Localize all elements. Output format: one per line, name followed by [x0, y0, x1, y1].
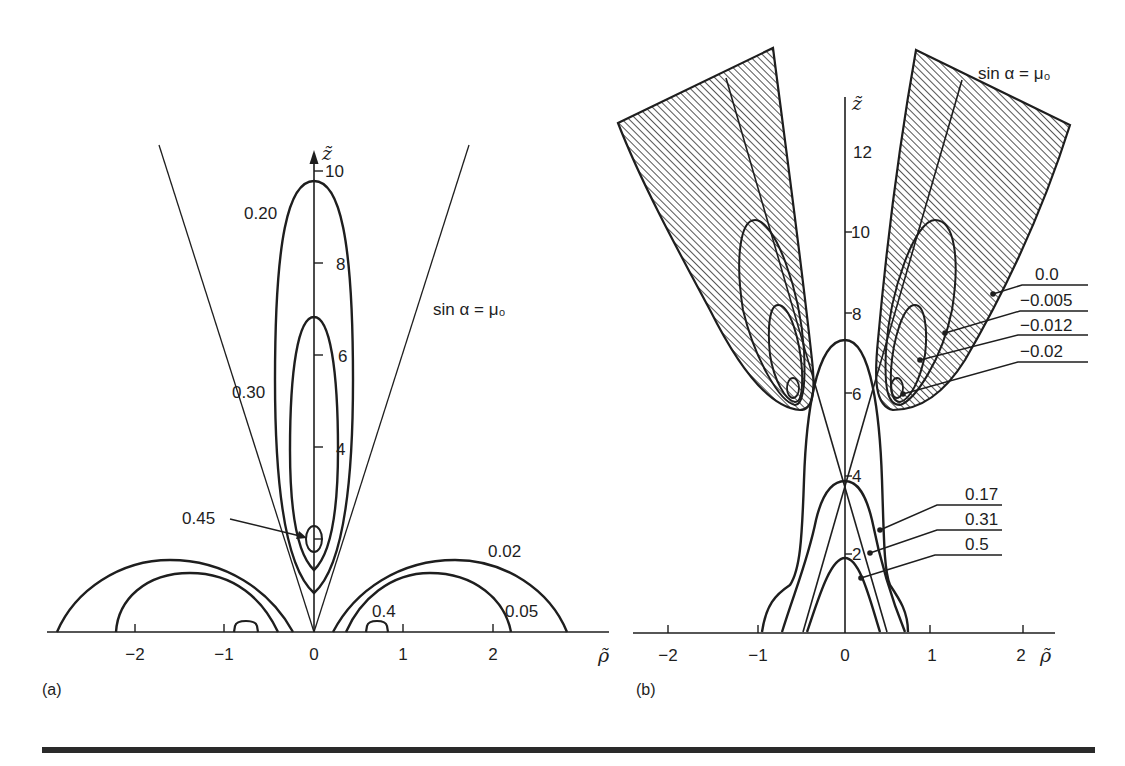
x-tick-label: −2 [125, 645, 144, 664]
arrow-0.45-leader [230, 519, 300, 536]
label-0.31: 0.31 [965, 510, 998, 529]
label-minus-0.005: −0.005 [1020, 291, 1072, 310]
asymptote-label-a: sin α = μ₀ [433, 300, 506, 319]
x-axis-symbol-b: ρ̃ [1039, 644, 1052, 666]
label-0.02: 0.02 [488, 542, 521, 561]
z-tick-label: 8 [852, 305, 861, 324]
z-tick-label: 6 [338, 347, 347, 366]
figure-canvas: −2 −1 0 1 2 ρ̃ z̃ 10 8 6 4 0.20 [0, 0, 1125, 766]
panel-a: −2 −1 0 1 2 ρ̃ z̃ 10 8 6 4 0.20 [42, 142, 610, 698]
label-minus-0.012: −0.012 [1020, 316, 1072, 335]
z-tick-label: 8 [336, 255, 345, 274]
label-0.20: 0.20 [244, 204, 277, 223]
label-0.17: 0.17 [965, 485, 998, 504]
contour-0.4-right [366, 621, 388, 632]
x-tick-label: 1 [927, 646, 936, 665]
z-axis-symbol-a: z̃ [321, 142, 333, 164]
label-minus-0.02: −0.02 [1020, 342, 1063, 361]
panel-label-a: (a) [42, 681, 62, 698]
panel-b: −2 −1 0 1 2 ρ̃ z̃ 12 10 8 6 4 2 [618, 48, 1088, 698]
x-axis-symbol-a: ρ̃ [597, 644, 610, 666]
contour-0.4-left [234, 621, 258, 632]
x-tick-label: −2 [658, 646, 677, 665]
x-tick-label: 2 [1016, 646, 1025, 665]
x-tick-label: 0 [840, 646, 849, 665]
x-tick-label: 0 [309, 645, 318, 664]
leader-dot [942, 330, 948, 336]
lobe-left-hatched [618, 48, 814, 410]
label-0.45: 0.45 [182, 509, 215, 528]
leader-dot [867, 550, 873, 556]
contour-0.31 [782, 481, 905, 632]
leader-dot [858, 575, 864, 581]
x-tick-label: 1 [398, 645, 407, 664]
z-axis-arrow-icon [310, 150, 319, 164]
panel-label-b: (b) [636, 681, 656, 698]
label-0.4: 0.4 [372, 602, 396, 621]
bottom-rule-divider [42, 747, 1095, 753]
asymptote-label-b: sin α = μ₀ [978, 64, 1051, 83]
z-tick-label: 12 [853, 143, 872, 162]
z-ticks-a [314, 171, 323, 447]
label-0.0: 0.0 [1035, 265, 1059, 284]
x-tick-label: −1 [214, 645, 233, 664]
label-0.05: 0.05 [505, 602, 538, 621]
contour-0.02-left [57, 560, 293, 632]
label-0.30: 0.30 [232, 383, 265, 402]
z-tick-label: 6 [852, 385, 861, 404]
z-tick-label: 10 [851, 223, 870, 242]
leader-dot [877, 527, 883, 533]
x-tick-label: −1 [748, 646, 767, 665]
x-tick-label: 2 [488, 645, 497, 664]
label-0.5: 0.5 [965, 535, 989, 554]
leader-dot [917, 357, 923, 363]
z-tick-label: 10 [325, 162, 344, 181]
contour-0.02-right [333, 560, 567, 632]
leader-dot [990, 291, 996, 297]
z-axis-symbol-b: z̃ [851, 92, 863, 114]
leader-dot [900, 391, 906, 397]
